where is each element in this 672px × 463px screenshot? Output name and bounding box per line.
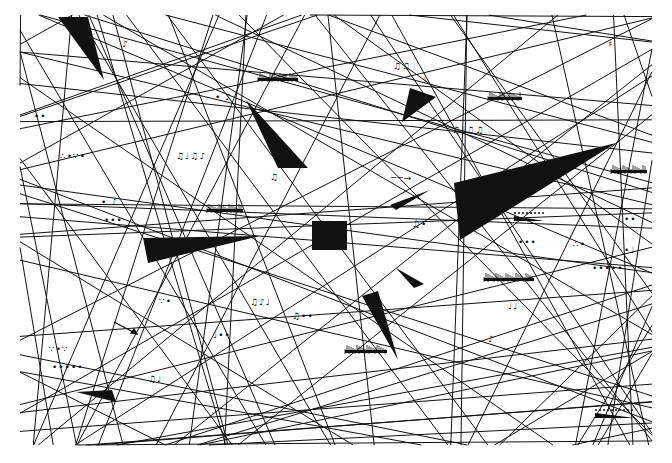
score-line <box>86 402 652 445</box>
notation-fragment: •• <box>34 112 47 121</box>
notation-fragment: ♫♩♫♫ <box>452 126 484 135</box>
notation-fragment: ♩•• <box>213 331 231 340</box>
score-line <box>20 372 421 445</box>
score-line <box>20 15 284 163</box>
score-line <box>20 260 652 408</box>
score-line <box>20 120 652 122</box>
score-line <box>573 428 652 445</box>
notation-fragment: ──→ <box>391 174 412 183</box>
score-line <box>20 247 652 404</box>
notation-fragment: ♯ <box>608 40 613 49</box>
notation-fragment: ••• <box>104 216 123 225</box>
graphic-score-canvas <box>0 0 672 463</box>
notation-fragment: ♪ <box>122 40 129 49</box>
score-line <box>76 15 213 445</box>
notation-fragment: ♩♩ <box>508 302 519 311</box>
score-line <box>239 15 652 435</box>
notation-fragment: ∵•∵ <box>49 345 69 354</box>
notation-fragment: ♫♩ <box>148 375 162 384</box>
notation-fragment: ♪ <box>488 335 495 344</box>
notation-fragment: ∴• <box>573 240 586 249</box>
score-line <box>20 15 317 116</box>
notation-fragment: • ♪ <box>101 198 118 207</box>
tremolo-cluster <box>484 273 534 282</box>
score-line <box>20 167 76 445</box>
notation-fragment: • ♪ <box>215 93 232 102</box>
left-horizontal-wedge <box>143 236 260 263</box>
notation-fragment: ♫♩♫♪ <box>176 152 206 161</box>
notation-fragment: •• <box>624 215 637 224</box>
notation-fragment: ∵• <box>159 297 172 306</box>
central-black-square <box>312 221 347 250</box>
notation-fragment: ••••• <box>592 264 624 273</box>
bottom-left-wedge <box>76 390 116 402</box>
notation-fragment: ♫♪♩ <box>250 298 271 307</box>
notation-fragment: •♩ <box>624 246 636 255</box>
notation-fragment: ♩ <box>422 76 427 85</box>
notation-fragment: ♫ <box>270 173 279 182</box>
notation-fragment: ♫• <box>412 220 427 229</box>
notation-fragment: ∴•∵• <box>60 152 86 161</box>
score-line <box>310 15 652 17</box>
center-lower-small-wedge <box>396 268 424 288</box>
score-line <box>117 347 652 445</box>
hairpin <box>595 409 635 418</box>
notation-fragment: ••• <box>518 238 537 247</box>
notation-fragment: ♫♫ <box>393 62 411 71</box>
score-line <box>20 15 21 86</box>
score-line <box>20 15 586 129</box>
score-line <box>77 441 652 445</box>
tremolo-cluster <box>345 345 387 354</box>
notation-fragment: ♫•• <box>292 312 314 321</box>
score-line <box>575 49 652 445</box>
notation-fragment: ••••• <box>52 363 84 372</box>
graphic-score-artwork: ♪♫♫♩♯••• ♪∴•∵•♫♩♫♪♫♩♫♫♫──→♫•• ♪•••∵•♫♪♩♫… <box>0 0 672 463</box>
